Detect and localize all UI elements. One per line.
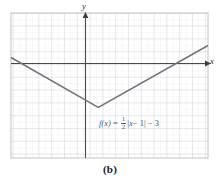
- y-axis-label: y: [82, 1, 86, 11]
- grid-major: [11, 13, 208, 158]
- graph-plot: [0, 0, 220, 188]
- figure-caption: (b): [0, 163, 220, 175]
- fraction-denominator: 2: [121, 124, 127, 131]
- equation-fraction: 1 2: [121, 116, 127, 131]
- abs-minus-one: − 1: [133, 118, 144, 128]
- abs-close-bar: |: [144, 118, 146, 128]
- x-axis-label: x: [210, 56, 214, 66]
- equation-constant: − 3: [148, 118, 159, 128]
- equation-lhs: f(x): [99, 118, 111, 128]
- equation-annotation: f(x) = 1 2 |x− 1| − 3: [99, 116, 159, 131]
- equation-equals: =: [113, 118, 118, 128]
- figure-panel: x y f(x) = 1 2 |x− 1| − 3 (b): [0, 0, 220, 188]
